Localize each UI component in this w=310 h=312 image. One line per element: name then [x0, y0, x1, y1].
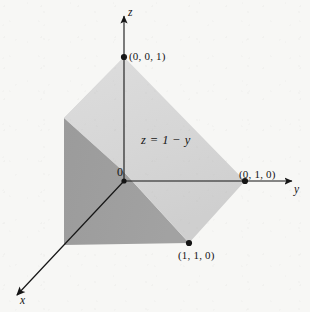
y-axis-label: y	[294, 183, 299, 195]
origin-label: 0	[117, 165, 123, 180]
figure-canvas: z y x 0 (0, 0, 1) (0, 1, 0) (1, 1, 0) z …	[0, 0, 310, 312]
point-label-001: (0, 0, 1)	[129, 50, 166, 62]
z-axis-label: z	[128, 6, 133, 18]
point-label-110: (1, 1, 0)	[178, 249, 215, 261]
point-label-010: (0, 1, 0)	[239, 168, 276, 180]
point-marker-001	[121, 54, 127, 60]
point-marker-110	[186, 240, 192, 246]
x-axis-label: x	[20, 294, 25, 306]
surface-equation-label: z = 1 − y	[141, 133, 191, 148]
diagram-svg	[0, 0, 310, 312]
